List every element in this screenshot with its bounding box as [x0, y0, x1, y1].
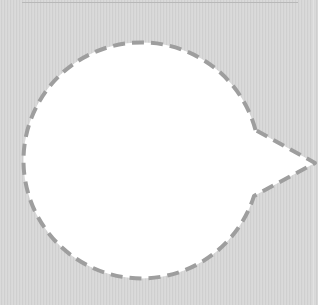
canvas [0, 0, 318, 305]
speech-bubble-outline [23, 42, 315, 278]
speech-bubble [0, 0, 318, 305]
